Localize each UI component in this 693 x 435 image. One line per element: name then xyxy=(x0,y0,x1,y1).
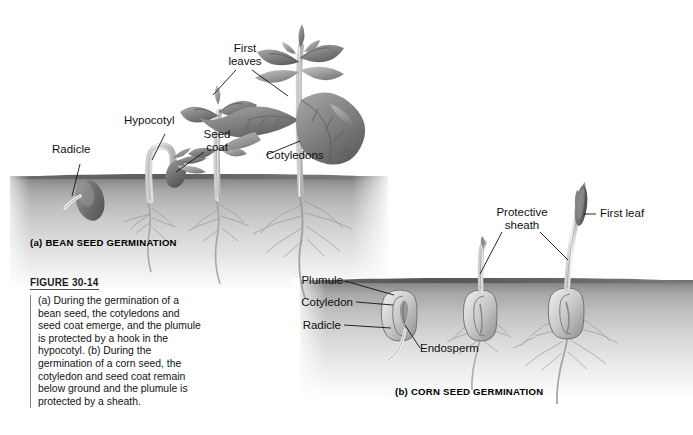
label-first-leaf: First leaf xyxy=(600,207,644,220)
label-seed-coat: Seed coat xyxy=(196,128,238,153)
figure-caption-text: (a) During the germination of a bean see… xyxy=(30,295,203,408)
soil-fade-right xyxy=(352,174,392,292)
label-first-leaves: First leaves xyxy=(218,42,272,67)
panel-a-caption: (a) BEAN SEED GERMINATION xyxy=(30,237,177,248)
leader-first-leaves-right xyxy=(252,70,288,96)
soil-corn-panel xyxy=(300,280,693,400)
label-endosperm: Endosperm xyxy=(420,342,479,355)
soil-fade-left xyxy=(0,174,30,292)
label-cotyledons: Cotyledons xyxy=(266,149,324,162)
label-radicle-corn: Radicle xyxy=(285,319,341,332)
label-plumule: Plumule xyxy=(285,274,343,287)
figure-caption-block: FIGURE 30-14 (a) During the germination … xyxy=(30,272,203,408)
leader-sheath-right xyxy=(540,232,568,260)
soil-surface-corn xyxy=(300,278,693,283)
leader-first-leaves-left xyxy=(213,70,236,95)
label-radicle-bean: Radicle xyxy=(52,143,90,156)
leader-hypocotyl xyxy=(152,134,165,160)
figure-30-14: Radicle Hypocotyl Seed coat First leaves… xyxy=(0,0,693,435)
label-cotyledon: Cotyledon xyxy=(285,296,353,309)
label-protective-sheath: Protective sheath xyxy=(487,206,557,231)
panel-b-caption: (b) CORN SEED GERMINATION xyxy=(395,386,543,397)
label-hypocotyl: Hypocotyl xyxy=(124,114,175,127)
leader-sheath-left xyxy=(480,232,502,274)
figure-number: FIGURE 30-14 xyxy=(30,277,99,290)
leader-seed-coat xyxy=(176,152,204,172)
soil-surface-bean xyxy=(10,174,388,179)
